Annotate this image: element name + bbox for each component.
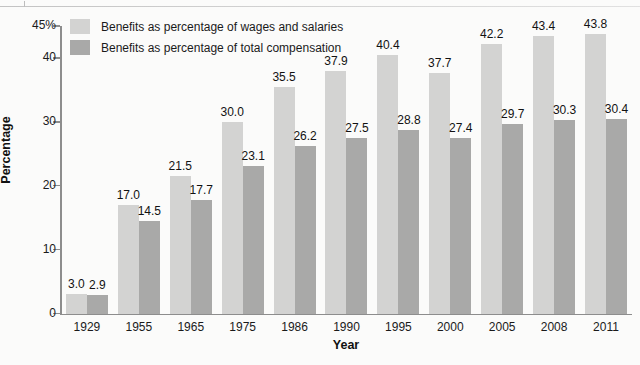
bar-series2: 28.8 xyxy=(398,130,419,314)
bar-group: 43.830.4 xyxy=(580,27,632,314)
bar-series1: 43.8 xyxy=(585,34,606,314)
bar-group: 30.023.1 xyxy=(217,27,269,314)
bar-group: 37.727.4 xyxy=(424,27,476,314)
bar-group: 43.430.3 xyxy=(528,27,580,314)
page-edge-tick-artifact xyxy=(24,1,25,7)
bar-series1: 17.0 xyxy=(118,205,139,314)
y-axis-tick-label: 40 xyxy=(43,50,56,64)
bar-group: 37.927.5 xyxy=(321,27,373,314)
bar-value-label: 21.5 xyxy=(169,159,192,173)
bar-value-label: 2.9 xyxy=(89,278,106,292)
bar-group: 35.526.2 xyxy=(269,27,321,314)
bar-series2: 30.4 xyxy=(606,119,627,313)
bar-series2: 2.9 xyxy=(87,295,108,314)
bar-group: 17.014.5 xyxy=(113,27,165,314)
bar-series1: 43.4 xyxy=(533,36,554,313)
bar-series2: 27.4 xyxy=(450,138,471,313)
bar-value-label: 26.2 xyxy=(293,129,316,143)
bar-group: 21.517.7 xyxy=(165,27,217,314)
bar-series1: 30.0 xyxy=(222,122,243,314)
bar-group: 42.229.7 xyxy=(476,27,528,314)
bar-series1: 21.5 xyxy=(170,176,191,313)
bar-value-label: 29.7 xyxy=(501,107,524,121)
bar-value-label: 43.8 xyxy=(584,17,607,31)
x-axis-tick-label: 1975 xyxy=(217,320,269,334)
bar-group: 40.428.8 xyxy=(372,27,424,314)
bar-series1: 3.0 xyxy=(66,294,87,313)
bar-value-label: 28.8 xyxy=(397,113,420,127)
bar-groups: 3.02.917.014.521.517.730.023.135.526.237… xyxy=(61,27,632,314)
x-axis-tick-label: 2000 xyxy=(424,320,476,334)
x-axis-tick-label: 2008 xyxy=(528,320,580,334)
x-axis-tick-label: 1965 xyxy=(165,320,217,334)
x-axis-tick-label: 1986 xyxy=(269,320,321,334)
bar-value-label: 23.1 xyxy=(241,149,264,163)
bar-value-label: 40.4 xyxy=(376,38,399,52)
y-axis-title: Percentage xyxy=(0,116,13,183)
bar-series2: 27.5 xyxy=(346,138,367,314)
bar-series1: 40.4 xyxy=(377,55,398,313)
x-axis-tick-labels: 1929195519651975198619901995200020052008… xyxy=(61,320,632,334)
bar-group: 3.02.9 xyxy=(61,27,113,314)
bar-value-label: 17.7 xyxy=(190,183,213,197)
x-axis-tick-label: 1955 xyxy=(113,320,165,334)
bar-series2: 23.1 xyxy=(243,166,264,314)
bar-value-label: 17.0 xyxy=(117,188,140,202)
bar-series2: 14.5 xyxy=(139,221,160,314)
bar-value-label: 27.4 xyxy=(449,121,472,135)
x-axis-tick-label: 2005 xyxy=(476,320,528,334)
bar-series2: 17.7 xyxy=(191,200,212,313)
bar-series2: 30.3 xyxy=(554,120,575,314)
page-edge-artifact xyxy=(0,6,640,7)
bar-value-label: 37.7 xyxy=(428,56,451,70)
x-axis-tick-label: 2011 xyxy=(580,320,632,334)
plot-area: 01020304045% 3.02.917.014.521.517.730.02… xyxy=(60,26,632,315)
x-axis-line xyxy=(60,314,632,316)
bar-value-label: 42.2 xyxy=(480,27,503,41)
chart-page: Benefits as percentage of wages and sala… xyxy=(0,0,640,365)
y-axis-tick-label: 30 xyxy=(43,114,56,128)
bar-value-label: 35.5 xyxy=(272,70,295,84)
bar-series2: 26.2 xyxy=(295,146,316,313)
x-axis-tick-label: 1995 xyxy=(372,320,424,334)
bar-series1: 37.7 xyxy=(429,73,450,314)
x-axis-tick-label: 1990 xyxy=(321,320,373,334)
bar-series2: 29.7 xyxy=(502,124,523,314)
bar-value-label: 30.3 xyxy=(553,103,576,117)
x-axis-title: Year xyxy=(60,338,632,352)
bar-value-label: 37.9 xyxy=(324,54,347,68)
y-axis-tick-label: 0 xyxy=(49,306,56,320)
bar-value-label: 27.5 xyxy=(345,121,368,135)
x-axis-tick-label: 1929 xyxy=(61,320,113,334)
bar-value-label: 30.4 xyxy=(605,102,628,116)
bar-value-label: 14.5 xyxy=(138,204,161,218)
bar-value-label: 3.0 xyxy=(68,277,85,291)
y-axis-tick-label: 45% xyxy=(32,18,56,32)
y-axis-tick-label: 20 xyxy=(43,178,56,192)
y-axis-tick-label: 10 xyxy=(43,242,56,256)
bar-series1: 37.9 xyxy=(325,71,346,313)
bar-series1: 42.2 xyxy=(481,44,502,314)
bar-value-label: 43.4 xyxy=(532,19,555,33)
bar-value-label: 30.0 xyxy=(220,105,243,119)
bar-series1: 35.5 xyxy=(274,87,295,314)
